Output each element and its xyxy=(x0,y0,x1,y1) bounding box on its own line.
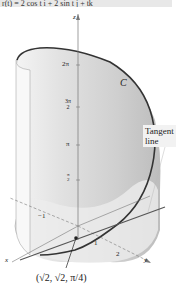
z-axis-label: z xyxy=(73,13,76,21)
tangent-line-callout: Tangent line xyxy=(143,125,176,147)
tick-neg-one: −1 xyxy=(38,212,45,220)
helix-diagram xyxy=(0,0,192,301)
z-tick-pi: π xyxy=(66,140,70,148)
z-tick-pi-2: π2 xyxy=(67,172,70,182)
z-tick-3pi-2: 3π2 xyxy=(65,98,71,110)
z-tick-2pi: 2π xyxy=(62,60,69,68)
y-axis-label: y xyxy=(144,256,147,264)
tick-one: 1 xyxy=(94,239,98,247)
point-label: (√2, √2, π/4) xyxy=(36,272,86,283)
curve-label-c: C xyxy=(120,77,127,88)
x-axis-label: x xyxy=(5,256,8,264)
tick-two: 2 xyxy=(116,250,120,258)
